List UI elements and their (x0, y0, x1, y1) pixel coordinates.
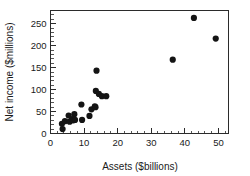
x-tick-label: 50 (213, 137, 224, 148)
scatter-chart-figure: 01020304050 050100150200250 Assets ($bil… (0, 0, 250, 176)
y-axis-tick-labels: 050100150200250 (31, 18, 47, 139)
chart-canvas: 01020304050 050100150200250 Assets ($bil… (0, 0, 250, 176)
x-tick-label: 0 (48, 137, 53, 148)
y-axis-major-ticks (51, 24, 57, 134)
y-tick-label: 250 (31, 18, 47, 29)
data-point (92, 104, 98, 110)
data-point (213, 36, 219, 42)
y-tick-label: 200 (31, 40, 47, 51)
data-point (78, 101, 84, 107)
data-point (191, 15, 197, 21)
y-axis-label: Net income ($millions) (4, 23, 15, 122)
y-tick-label: 150 (31, 62, 47, 73)
data-point (72, 117, 78, 123)
x-axis-major-ticks (51, 128, 219, 134)
data-point (71, 111, 77, 117)
data-point (103, 93, 109, 99)
y-tick-label: 50 (36, 106, 47, 117)
data-point (59, 126, 65, 132)
data-point (86, 113, 92, 119)
x-axis-label: Assets ($billions) (102, 161, 178, 172)
y-tick-label: 100 (31, 84, 47, 95)
y-tick-label: 0 (41, 128, 46, 139)
x-tick-label: 30 (146, 137, 157, 148)
data-point (93, 68, 99, 74)
x-tick-label: 20 (112, 137, 123, 148)
data-point (170, 57, 176, 63)
x-tick-label: 40 (180, 137, 191, 148)
data-point (79, 117, 85, 123)
x-tick-label: 10 (79, 137, 90, 148)
data-points (59, 15, 219, 132)
x-axis-tick-labels: 01020304050 (48, 137, 224, 148)
